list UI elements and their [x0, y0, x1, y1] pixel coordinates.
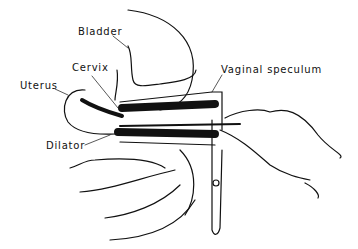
- speculum-screw: [213, 180, 219, 186]
- anatomy-diagram: [0, 0, 358, 249]
- vaginal-canal-lower: [118, 132, 215, 134]
- cervix-leader: [92, 76, 118, 108]
- label-cervix: Cervix: [72, 62, 109, 73]
- speculum-leader: [212, 75, 222, 92]
- lower-curve-1: [70, 159, 165, 168]
- speculum-lower-blade: [120, 142, 215, 145]
- lower-curve-4: [110, 200, 195, 240]
- label-uterus: Uterus: [20, 80, 58, 91]
- vaginal-canal-upper: [122, 104, 215, 108]
- bladder-leader: [113, 36, 128, 48]
- lower-curve-2: [80, 170, 175, 192]
- cervix-line: [115, 70, 118, 100]
- label-bladder: Bladder: [78, 26, 122, 37]
- uterine-cavity: [82, 100, 122, 116]
- label-vaginal-speculum: Vaginal speculum: [221, 64, 322, 75]
- label-dilator: Dilator: [46, 140, 85, 151]
- dilator-leader: [85, 135, 110, 145]
- bladder-shape: [128, 46, 196, 86]
- lower-curve-3: [105, 185, 180, 218]
